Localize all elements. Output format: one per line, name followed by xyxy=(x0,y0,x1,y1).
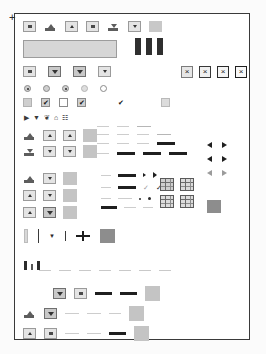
close-button[interactable]: × xyxy=(217,66,229,78)
square-button[interactable] xyxy=(74,288,87,299)
ramp-up-button[interactable] xyxy=(23,308,36,319)
dark-bar[interactable] xyxy=(146,38,152,55)
dark-swatch-icon xyxy=(100,229,115,243)
swatch xyxy=(63,172,77,185)
dash xyxy=(159,270,171,271)
chevron-down-icon xyxy=(77,70,83,74)
toolbar-button-1[interactable] xyxy=(23,21,36,32)
caret-down-icon[interactable]: ▼ xyxy=(49,233,55,239)
grid-icon[interactable] xyxy=(160,195,174,208)
toolbar-button-6[interactable] xyxy=(128,21,141,32)
spin-up-button[interactable] xyxy=(63,130,76,141)
swatch xyxy=(134,326,149,341)
grid-icon[interactable] xyxy=(180,178,194,191)
spinner-row-b3 xyxy=(23,206,77,219)
scroll-right-arrow[interactable] xyxy=(222,156,227,162)
small-square-icon xyxy=(28,70,32,73)
dropdown-button-2[interactable] xyxy=(48,66,61,77)
dropdown-button-pressed[interactable] xyxy=(44,308,57,319)
dropdown-button-3[interactable] xyxy=(73,66,86,77)
spin-up-ramp-button[interactable] xyxy=(23,173,36,184)
toolbar-button-7[interactable] xyxy=(149,21,162,32)
radio-button[interactable] xyxy=(43,85,50,92)
scroll-right-arrow[interactable] xyxy=(222,170,227,176)
triangle-down-icon xyxy=(48,177,52,180)
dropdown-button-1[interactable] xyxy=(23,66,36,77)
spin-down-button[interactable] xyxy=(43,146,56,157)
spin-down-ramp-button[interactable] xyxy=(23,146,36,157)
close-button[interactable]: × xyxy=(235,66,247,78)
line-sample xyxy=(124,207,136,208)
square-button[interactable] xyxy=(44,328,57,339)
dropdown-button[interactable] xyxy=(53,288,66,299)
bottom-row-1 xyxy=(53,286,160,301)
vertical-rule-icon[interactable] xyxy=(38,229,39,243)
line-dot-block: ✓ ✓ xyxy=(101,172,162,209)
status-bar-tick xyxy=(37,261,40,270)
radio-button[interactable] xyxy=(81,85,88,92)
dark-bar[interactable] xyxy=(157,38,163,55)
line-sample xyxy=(97,153,109,154)
swatch xyxy=(63,206,77,219)
swatch xyxy=(83,129,97,142)
text-input[interactable] xyxy=(23,40,117,58)
checkbox[interactable]: ✔ xyxy=(41,98,50,107)
grid-icon[interactable] xyxy=(180,195,194,208)
triangle-down-icon[interactable]: ▼ xyxy=(33,114,40,121)
spin-down-button[interactable] xyxy=(63,146,76,157)
spin-down-button[interactable] xyxy=(43,190,56,201)
scroll-arrow-pairs xyxy=(207,142,227,176)
scroll-right-arrow[interactable] xyxy=(222,142,227,148)
line-sample xyxy=(117,152,135,155)
folder-icon[interactable]: ⌂ xyxy=(54,114,58,121)
scroll-left-arrow[interactable] xyxy=(207,142,212,148)
vertical-grip-icon[interactable] xyxy=(24,229,28,243)
check-icon: ✓ xyxy=(143,184,149,191)
line-sample xyxy=(137,143,149,144)
spin-up-button[interactable] xyxy=(23,190,36,201)
status-bar-dashes xyxy=(39,270,171,271)
vertical-rule-icon[interactable] xyxy=(65,231,66,241)
spin-down-button[interactable] xyxy=(43,173,56,184)
spin-up-button[interactable] xyxy=(43,130,56,141)
checkbox[interactable] xyxy=(23,98,32,107)
line-sample xyxy=(137,134,149,135)
split-handle-icon[interactable] xyxy=(76,231,90,241)
spin-up-ramp-button[interactable] xyxy=(23,130,36,141)
radio-button[interactable] xyxy=(100,85,107,92)
close-icon: × xyxy=(201,68,209,76)
toolbar-button-4[interactable] xyxy=(86,21,99,32)
dash xyxy=(119,270,131,271)
folder-open-icon[interactable]: ❦ xyxy=(44,114,50,121)
close-button[interactable]: × xyxy=(181,66,193,78)
chevron-down-icon xyxy=(57,292,63,296)
checkbox[interactable]: ✔ xyxy=(116,98,125,107)
line-sample xyxy=(120,292,137,295)
close-icon: × xyxy=(219,68,227,76)
dark-bar[interactable] xyxy=(135,38,141,55)
spin-up-button[interactable] xyxy=(23,207,36,218)
close-button[interactable]: × xyxy=(199,66,211,78)
document-icon[interactable]: ☷ xyxy=(62,114,68,121)
status-bar-tick xyxy=(24,261,27,270)
toolbar-button-3[interactable] xyxy=(65,21,78,32)
scroll-left-arrow[interactable] xyxy=(207,170,212,176)
line-sample xyxy=(157,142,175,145)
swatch xyxy=(129,306,144,321)
toolbar-button-2[interactable] xyxy=(44,21,57,32)
grid-header-icon[interactable] xyxy=(160,178,174,191)
checkbox[interactable] xyxy=(161,98,170,107)
checkbox[interactable]: ✔ xyxy=(77,98,86,107)
line-sample xyxy=(97,126,109,127)
spin-up-button[interactable] xyxy=(23,328,36,339)
radio-button[interactable] xyxy=(24,85,31,92)
bottom-row-2 xyxy=(23,306,144,321)
checkbox[interactable] xyxy=(59,98,68,107)
radio-button[interactable] xyxy=(62,85,69,92)
toolbar-button-5[interactable] xyxy=(107,21,120,32)
dropdown-button-4[interactable] xyxy=(98,66,111,77)
triangle-right-icon[interactable]: ▶ xyxy=(24,114,29,121)
line-sample xyxy=(118,174,136,177)
scroll-left-arrow[interactable] xyxy=(207,156,212,162)
spin-down-button[interactable] xyxy=(43,207,56,218)
